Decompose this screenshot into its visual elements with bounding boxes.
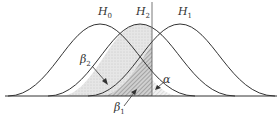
beta1-label: β1 — [114, 102, 125, 116]
alpha-label: α — [163, 74, 170, 85]
h0-label: H0 — [98, 6, 112, 20]
h2-label: H2 — [136, 6, 150, 20]
beta2-label: β2 — [80, 54, 91, 68]
h1-label: H1 — [178, 6, 192, 20]
hypothesis-test-diagram: H0 H2 H1 β2 β1 α — [0, 0, 280, 116]
